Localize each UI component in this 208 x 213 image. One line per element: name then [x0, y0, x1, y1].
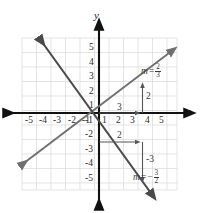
y-tick--2: -2	[85, 130, 93, 140]
y-tick--3: -3	[85, 145, 93, 155]
slope-equals-line2: =	[141, 173, 146, 183]
y-tick--4: -4	[85, 159, 93, 169]
x-tick-3: 3	[130, 116, 135, 126]
y-axis-label: y	[94, 10, 99, 21]
slope-symbol-m-line2: m	[133, 173, 140, 183]
x-axis-label: x	[186, 106, 191, 117]
x-tick--5: -5	[25, 116, 33, 126]
slope-numerator-line2: 3	[154, 170, 160, 177]
y-tick-2: 2	[89, 87, 94, 97]
run-label-line1: 3	[117, 103, 122, 113]
y-tick-1: 1	[89, 101, 94, 111]
x-tick-2: 2	[116, 116, 121, 126]
y-tick-5: 5	[89, 43, 94, 53]
slope-denominator-line2: 2	[154, 177, 160, 185]
x-tick-1: 1	[102, 116, 107, 126]
y-tick-4: 4	[89, 58, 94, 68]
x-tick--4: -4	[39, 116, 47, 126]
run-label-line2: 2	[117, 131, 122, 141]
coordinate-plane-svg	[0, 0, 208, 213]
slope-equals-line1: =	[149, 67, 154, 77]
slope-symbol-m-line1: m	[141, 67, 148, 77]
x-tick--3: -3	[53, 116, 61, 126]
y-tick--5: -5	[85, 174, 93, 184]
rise-label-line1: 2	[146, 92, 151, 102]
slope-annotation-line2: m = − 3 2	[133, 170, 159, 185]
x-tick-5: 5	[159, 116, 164, 126]
slope-annotation-line1: m = 2 3	[141, 64, 161, 79]
slope-fraction-line2: 3 2	[154, 170, 160, 185]
y-tick--1: -1	[85, 116, 93, 126]
graph-figure: y x -5 -4 -3 -2 -1 1 2 3 4 5 1 2 3 4 5 -…	[0, 0, 208, 213]
x-tick--2: -2	[68, 116, 76, 126]
x-tick-4: 4	[145, 116, 150, 126]
slope-denominator-line1: 3	[155, 71, 161, 79]
rise-label-line2: -3	[146, 155, 154, 165]
slope-fraction-line1: 2 3	[155, 64, 161, 79]
y-tick-3: 3	[89, 72, 94, 82]
slope-sign-line2: −	[147, 173, 152, 183]
slope-numerator-line1: 2	[155, 64, 161, 71]
